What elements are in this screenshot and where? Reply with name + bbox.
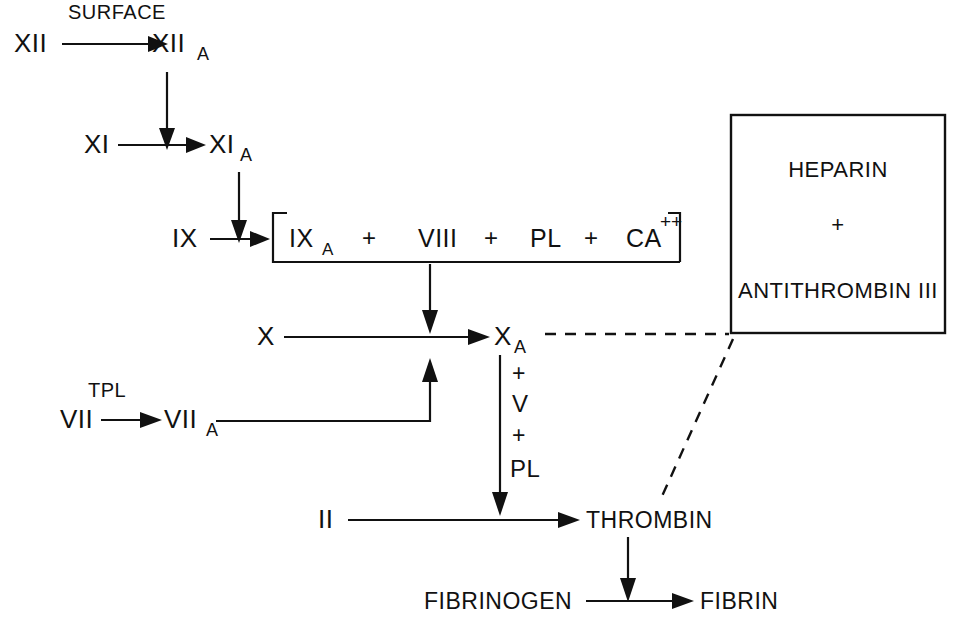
node-factor-xiia-subscript: A	[197, 44, 209, 64]
reaction-vii-to-viia: VII VII A TPL	[60, 379, 218, 440]
tenase-complex-bracket: IX A + VIII + PL + CA ++	[273, 211, 682, 262]
node-factor-ii: II	[318, 504, 333, 534]
complex-plus-3: +	[584, 224, 599, 251]
inhibitor-label-heparin: HEPARIN	[788, 157, 888, 182]
catalyst-label-tpl: TPL	[88, 379, 126, 401]
node-factor-viia-subscript: A	[206, 420, 218, 440]
arrow-head-ix	[250, 231, 270, 247]
node-factor-xa-subscript: A	[514, 337, 526, 357]
node-cofactor-v: V	[512, 390, 529, 417]
node-fibrinogen: FIBRINOGEN	[424, 588, 572, 614]
node-factor-viii: VIII	[418, 224, 458, 252]
node-factor-viia: VII	[164, 404, 197, 434]
catalyst-label-surface: SURFACE	[68, 1, 166, 23]
node-calcium-superscript: ++	[660, 211, 682, 232]
arrow-viia-to-x-line	[216, 358, 438, 421]
node-factor-ix: IX	[172, 223, 198, 253]
arrow-thrombin-down	[620, 537, 636, 602]
arrow-head-xiia-down	[159, 128, 175, 150]
node-cofactor-pl: PL	[510, 455, 540, 482]
coagulation-cascade-diagram: XII XII A SURFACE XI XI A IX	[0, 0, 955, 627]
node-factor-xi: XI	[84, 129, 110, 159]
node-factor-xa: X	[494, 321, 512, 351]
bracket-left-and-bottom	[273, 213, 680, 262]
node-factor-ixa-complex-subscript: A	[322, 240, 334, 259]
arrow-complex-down	[422, 264, 438, 334]
node-factor-xia: XI	[209, 129, 235, 159]
arrow-xa-to-thrombin: + V + PL	[492, 355, 540, 516]
reaction-fibrinogen-to-fibrin: FIBRINOGEN FIBRIN	[424, 588, 778, 614]
arrow-xia-down	[231, 172, 247, 243]
node-factor-xii: XII	[14, 28, 47, 58]
arrow-head-thrombin-down	[620, 578, 636, 602]
arrow-head-xi	[186, 137, 206, 153]
node-thrombin: THROMBIN	[586, 507, 713, 533]
inhibitor-label-plus: +	[831, 212, 844, 237]
arrow-xiia-down	[159, 72, 175, 150]
arrow-head-ii	[558, 512, 580, 528]
node-calcium: CA	[626, 224, 662, 252]
arrow-head-viia-up	[422, 358, 438, 382]
cofactor-plus-top: +	[512, 360, 526, 386]
arrow-head-complex-down	[422, 310, 438, 334]
inhibitor-label-antithrombin: ANTITHROMBIN III	[738, 278, 938, 303]
cascade-svg-canvas: XII XII A SURFACE XI XI A IX	[0, 0, 955, 627]
arrow-head-xa-down	[492, 492, 508, 516]
arrow-head-vii	[140, 412, 162, 428]
node-factor-x: X	[257, 321, 275, 351]
arrow-head-x	[468, 329, 490, 345]
inhibitor-box: HEPARIN + ANTITHROMBIN III	[731, 115, 945, 333]
reaction-xii-to-xiia: XII XII A SURFACE	[14, 1, 209, 64]
node-factor-xiia: XII	[152, 28, 185, 58]
dashed-line-to-thrombin	[659, 339, 733, 503]
arrow-head-fibrinogen	[672, 593, 694, 609]
inhibition-connectors	[545, 334, 733, 503]
complex-plus-1: +	[362, 224, 377, 251]
complex-plus-2: +	[484, 224, 499, 251]
reaction-ii-to-thrombin: II THROMBIN	[318, 504, 713, 534]
reaction-ix-to-complex: IX	[172, 223, 270, 253]
arrow-shaft-viia-elbow	[216, 382, 430, 421]
cofactor-plus-bottom: +	[512, 422, 526, 448]
node-phospholipid-complex: PL	[530, 224, 562, 252]
node-fibrin: FIBRIN	[700, 588, 778, 614]
reaction-x-to-xa: X X A	[257, 321, 526, 357]
node-factor-vii: VII	[60, 404, 93, 434]
node-factor-ixa-complex: IX	[289, 224, 314, 252]
node-factor-xia-subscript: A	[240, 145, 252, 165]
